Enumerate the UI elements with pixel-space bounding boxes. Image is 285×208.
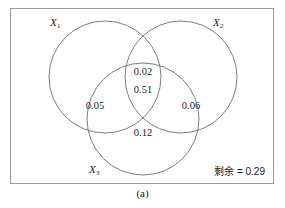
region-value-x1-x2: 0.02 (123, 67, 163, 78)
remainder-annotation: 剩余 = 0.29 (214, 167, 265, 177)
set-subscript-x3: 3 (96, 169, 100, 177)
region-value-x1-x3: 0.05 (75, 101, 115, 112)
remainder-equals: = (237, 166, 243, 177)
region-value-x1-x2-x3: 0.51 (123, 85, 163, 96)
set-symbol-x2: X (213, 16, 220, 28)
set-label-x3: X3 (89, 164, 99, 175)
remainder-label: 剩余 (214, 166, 234, 177)
figure-caption: (a) (0, 188, 285, 199)
remainder-value: 0.29 (246, 166, 265, 177)
set-label-x2: X2 (213, 17, 223, 28)
venn-circles-svg (11, 9, 273, 183)
set-symbol-x3: X (89, 163, 96, 175)
region-value-x3-only: 0.12 (123, 128, 163, 139)
circle-x3 (87, 63, 199, 175)
set-subscript-x2: 2 (220, 22, 224, 30)
region-value-x2-x3: 0.06 (171, 101, 211, 112)
venn-diagram-panel: X1 X2 X3 0.02 0.51 0.05 0.06 0.12 剩余 = 0… (10, 8, 274, 184)
set-symbol-x1: X (50, 16, 57, 28)
set-subscript-x1: 1 (57, 22, 61, 30)
set-label-x1: X1 (50, 17, 60, 28)
figure-container: X1 X2 X3 0.02 0.51 0.05 0.06 0.12 剩余 = 0… (0, 0, 285, 208)
